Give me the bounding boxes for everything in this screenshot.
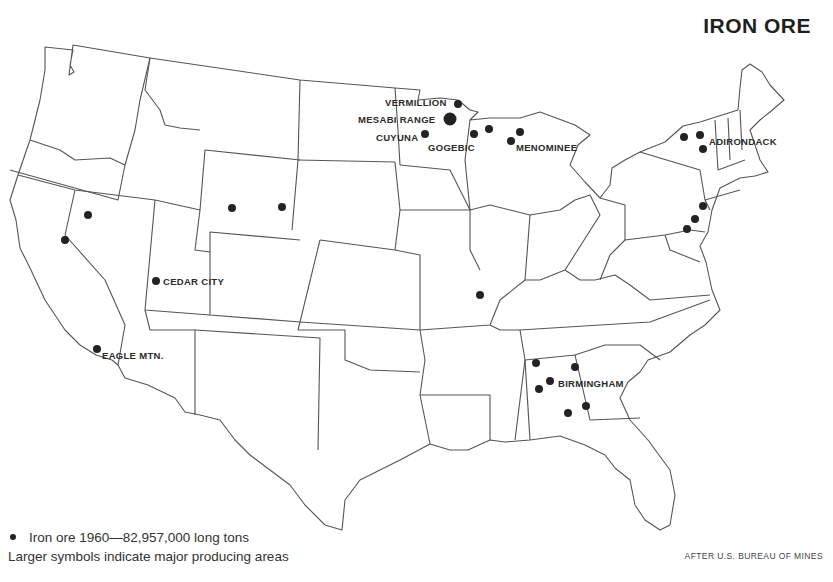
iron-ore-site-marker — [61, 236, 69, 244]
legend-dot-icon — [10, 534, 16, 540]
iron-ore-site-marker — [691, 215, 699, 223]
iron-ore-site-marker — [507, 137, 515, 145]
iron-ore-site-marker — [476, 291, 484, 299]
legend: Iron ore 1960—82,957,000 long tons Large… — [8, 527, 289, 567]
legend-symbol-label: Iron ore 1960—82,957,000 long tons — [29, 530, 249, 545]
iron-ore-site-marker — [582, 402, 590, 410]
site-label-menominee: MENOMINEE — [516, 142, 577, 153]
iron-ore-site-marker — [699, 145, 707, 153]
site-label-vermillion: VERMILLION — [385, 97, 447, 108]
iron-ore-site-marker — [444, 113, 457, 126]
iron-ore-site-marker — [696, 131, 704, 139]
iron-ore-site-marker — [421, 130, 429, 138]
iron-ore-site-marker — [546, 377, 554, 385]
iron-ore-site-marker — [680, 133, 688, 141]
site-label-birmingham: BIRMINGHAM — [558, 378, 624, 389]
site-label-adirondack: ADIRONDACK — [709, 136, 777, 147]
site-label-gogebic: GOGEBIC — [428, 142, 475, 153]
iron-ore-site-marker — [470, 130, 478, 138]
iron-ore-site-marker — [532, 359, 540, 367]
iron-ore-site-marker — [699, 202, 707, 210]
iron-ore-site-marker — [571, 363, 579, 371]
iron-ore-site-marker — [152, 277, 160, 285]
iron-ore-site-marker — [454, 100, 462, 108]
legend-row-symbol: Iron ore 1960—82,957,000 long tons — [8, 527, 289, 547]
us-states-map — [0, 0, 833, 582]
source-credit: AFTER U.S. BUREAU OF MINES — [685, 551, 823, 561]
iron-ore-site-marker — [228, 204, 236, 212]
iron-ore-site-marker — [535, 385, 543, 393]
iron-ore-site-marker — [84, 211, 92, 219]
iron-ore-site-marker — [516, 128, 524, 136]
iron-ore-site-marker — [485, 125, 493, 133]
site-label-eagle-mtn: EAGLE MTN. — [102, 350, 164, 361]
site-label-mesabi-range: MESABI RANGE — [358, 114, 436, 125]
iron-ore-site-marker — [683, 225, 691, 233]
iron-ore-site-marker — [93, 345, 101, 353]
iron-ore-site-marker — [564, 409, 572, 417]
map-title: IRON ORE — [703, 14, 811, 38]
site-label-cedar-city: CEDAR CITY — [163, 276, 224, 287]
site-label-cuyuna: CUYUNA — [376, 132, 418, 143]
legend-note: Larger symbols indicate major producing … — [8, 547, 289, 567]
iron-ore-site-marker — [278, 203, 286, 211]
